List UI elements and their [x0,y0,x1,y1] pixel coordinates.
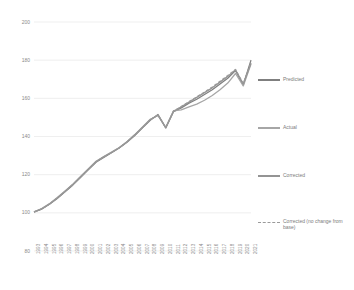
x-axis-tick-label: 2013 [191,244,196,254]
legend-item-corrected[interactable]: Corrected [258,172,305,178]
x-axis-tick-label: 1995 [52,244,57,254]
x-axis-tick-label: 2020 [245,244,250,254]
legend-item-corrected-no-change-from-base[interactable]: Corrected (no change from base) [258,218,349,230]
x-axis-tick-label: 2008 [152,244,157,254]
legend-label: Actual [283,124,297,130]
x-axis-tick-label: 1994 [44,244,49,254]
x-axis-tick-label: 2014 [199,244,204,254]
x-axis-tick-label: 2018 [230,244,235,254]
x-axis-tick-label: 2012 [183,244,188,254]
legend-label: Corrected [283,172,305,178]
x-axis-tick-label: 2006 [137,244,142,254]
legend-swatch-icon [258,175,280,177]
legend-swatch-icon [258,222,280,223]
x-axis-tick-label: 2000 [90,244,95,254]
y-axis-tick-label: 160 [14,96,30,101]
legend-swatch-icon [258,79,280,81]
x-axis-tick-label: 1996 [59,244,64,254]
x-axis-tick-label: 2002 [106,244,111,254]
x-axis-tick-label: 2017 [222,244,227,254]
legend-swatch-icon [258,127,280,129]
y-axis-tick-label: 80 [14,249,30,254]
y-axis-tick-label: 200 [14,20,30,25]
legend-item-actual[interactable]: Actual [258,124,297,130]
x-axis-tick-label: 2011 [176,244,181,254]
legend-label: Corrected (no change from base) [283,218,349,230]
x-axis-tick-label: 1993 [36,244,41,254]
x-axis-tick-label: 2015 [207,244,212,254]
line-chart: 20018016014012010080 1993199419951996199… [0,0,354,290]
x-axis-tick-label: 2005 [129,244,134,254]
x-axis-tick-label: 2001 [98,244,103,254]
y-axis-tick-label: 120 [14,172,30,177]
x-axis-tick-label: 2016 [214,244,219,254]
x-axis-tick-label: 2021 [253,244,258,254]
y-axis-tick-label: 180 [14,58,30,63]
legend-label: Predicted [283,76,304,82]
y-axis-tick-label: 140 [14,134,30,139]
x-axis-tick-label: 2019 [238,244,243,254]
x-axis-tick-label: 2007 [145,244,150,254]
x-axis-tick-label: 1999 [83,244,88,254]
x-axis-tick-label: 2010 [168,244,173,254]
x-axis-tick-label: 2009 [160,244,165,254]
x-axis-tick-label: 1998 [75,244,80,254]
x-axis-tick-label: 2003 [114,244,119,254]
x-axis-tick-label: 1997 [67,244,72,254]
legend-item-predicted[interactable]: Predicted [258,76,304,82]
x-axis-tick-label: 2004 [121,244,126,254]
y-axis-tick-label: 100 [14,210,30,215]
